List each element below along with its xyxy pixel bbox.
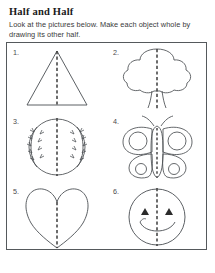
tree-icon <box>107 43 208 112</box>
heart-icon <box>7 182 107 251</box>
exercise-item-4[interactable]: 4. <box>107 112 208 182</box>
butterfly-icon <box>107 112 208 182</box>
triangle-icon <box>7 43 107 112</box>
baseball-icon <box>7 112 107 182</box>
exercise-item-1[interactable]: 1. <box>7 43 107 112</box>
exercise-item-6[interactable]: 6. <box>107 182 208 251</box>
exercise-item-2[interactable]: 2. <box>107 43 208 112</box>
page-title: Half and Half <box>9 6 73 17</box>
smiley-face-icon <box>107 182 208 251</box>
instructions-text: Look at the pictures below. Make each ob… <box>9 20 205 39</box>
exercise-grid: 1. 2. <box>6 42 207 250</box>
exercise-item-3[interactable]: 3. <box>7 112 107 182</box>
worksheet-page: Half and Half Look at the pictures below… <box>0 0 215 273</box>
exercise-item-5[interactable]: 5. <box>7 182 107 251</box>
